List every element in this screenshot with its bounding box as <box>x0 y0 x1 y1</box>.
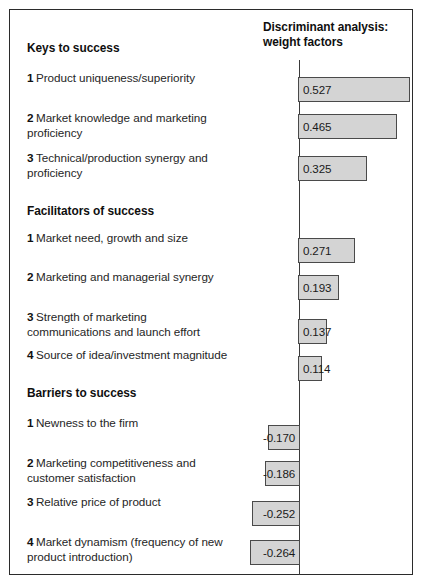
item-number: 2 <box>27 111 33 124</box>
bar-value-label: 0.193 <box>303 281 331 294</box>
bar-value-label: 0.114 <box>303 362 330 375</box>
bar-4: 0.193 <box>298 275 339 300</box>
item-number: 4 <box>27 535 33 548</box>
item-label: Source of idea/investment magnitude <box>36 348 227 361</box>
item-label: Market dynamism (frequency of new produc… <box>27 535 223 563</box>
list-item: 3Technical/production synergy and profic… <box>27 151 255 180</box>
item-label: Market need, growth and size <box>36 231 188 244</box>
item-number: 1 <box>27 416 33 429</box>
bar-0: 0.527 <box>298 77 410 102</box>
chart-title-line-1: Discriminant analysis: <box>263 20 388 34</box>
bar-value-label: 0.271 <box>303 244 331 257</box>
item-number: 3 <box>27 151 33 164</box>
list-item: 4Market dynamism (frequency of new produ… <box>27 535 227 564</box>
bar-9: -0.252 <box>252 501 300 526</box>
item-number: 2 <box>27 270 33 283</box>
item-label: Marketing and managerial synergy <box>36 270 214 283</box>
bar-value-label: -0.186 <box>263 467 295 480</box>
chart-title-line-2: weight factors <box>263 35 343 49</box>
item-label: Marketing competitiveness and customer s… <box>27 456 196 484</box>
group-heading-keys-to-success: Keys to success <box>27 41 119 55</box>
list-item: 2Marketing competitiveness and customer … <box>27 456 227 485</box>
criteria-text-column: Keys to success 1Product uniqueness/supe… <box>10 10 258 574</box>
list-item: 4Source of idea/investment magnitude <box>27 348 259 363</box>
item-number: 2 <box>27 456 33 469</box>
item-number: 4 <box>27 348 33 361</box>
bar-7: -0.170 <box>268 425 300 450</box>
item-number: 3 <box>27 310 33 323</box>
item-number: 3 <box>27 495 33 508</box>
list-item: 1Market need, growth and size <box>27 231 255 246</box>
item-number: 1 <box>27 231 33 244</box>
bar-3: 0.271 <box>298 238 355 263</box>
bar-value-label: -0.170 <box>263 431 295 444</box>
bar-value-label: -0.252 <box>263 507 295 520</box>
bar-value-label: -0.264 <box>263 546 295 559</box>
figure-panel: Keys to success 1Product uniqueness/supe… <box>9 9 413 575</box>
bar-value-label: 0.465 <box>303 120 331 133</box>
item-label: Product uniqueness/superiority <box>36 71 195 84</box>
bar-5: 0.137 <box>298 319 327 344</box>
list-item: 1Newness to the firm <box>27 416 255 431</box>
group-heading-facilitators-of-success: Facilitators of success <box>27 204 154 218</box>
list-item: 3Strength of marketing communications an… <box>27 310 232 339</box>
bar-value-label: 0.137 <box>303 325 331 338</box>
item-label: Strength of marketing communications and… <box>27 310 200 338</box>
bar-1: 0.465 <box>298 114 397 139</box>
bar-6: 0.114 <box>298 356 322 381</box>
item-label: Newness to the firm <box>36 416 138 429</box>
item-label: Technical/production synergy and profici… <box>27 151 208 179</box>
chart-title: Discriminant analysis: weight factors <box>263 20 418 49</box>
item-label: Relative price of product <box>36 495 161 508</box>
bar-chart: Discriminant analysis: weight factors 0.… <box>258 10 412 574</box>
bar-8: -0.186 <box>265 461 300 486</box>
list-item: 2Marketing and managerial synergy <box>27 270 255 285</box>
item-number: 1 <box>27 71 33 84</box>
list-item: 1Product uniqueness/superiority <box>27 71 255 86</box>
list-item: 2Market knowledge and marketing proficie… <box>27 111 255 140</box>
list-item: 3Relative price of product <box>27 495 255 510</box>
bar-10: -0.264 <box>250 540 300 565</box>
bar-2: 0.325 <box>298 156 367 181</box>
group-heading-barriers-to-success: Barriers to success <box>27 386 136 400</box>
bar-value-label: 0.527 <box>303 83 331 96</box>
bar-value-label: 0.325 <box>303 162 331 175</box>
item-label: Market knowledge and marketing proficien… <box>27 111 207 139</box>
